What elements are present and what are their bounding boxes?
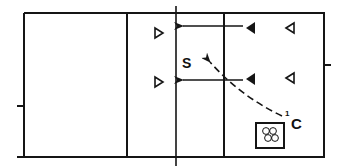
player-open-triangle-right-icon [155, 77, 163, 87]
volleyball-court-diagram: S 1 C [0, 0, 345, 168]
player-open-triangle-right-icon [155, 28, 163, 38]
ball-path-dashed-arrow [210, 62, 282, 116]
setter-label: S [182, 55, 191, 71]
coach-label: C [291, 115, 302, 132]
ball-cart-icon [256, 123, 284, 148]
player-open-triangle-left-icon [286, 23, 294, 33]
player-filled-triangle-left-icon [246, 22, 255, 34]
coach-sequence-number: 1 [285, 109, 290, 118]
player-open-triangle-left-icon [286, 73, 294, 83]
player-filled-triangle-left-icon [246, 73, 255, 85]
